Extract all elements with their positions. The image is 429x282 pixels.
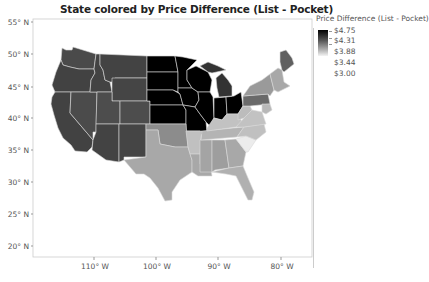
state-az[interactable] [92, 124, 119, 162]
y-tick-label: 30° N [8, 178, 29, 187]
state-ks[interactable] [150, 105, 186, 124]
legend-separator [313, 28, 314, 268]
state-fl[interactable] [212, 166, 254, 200]
y-tick-label: 55° N [8, 18, 29, 27]
x-tick-label: 90° W [207, 262, 231, 271]
legend-title: Price Difference (List - Pocket) [316, 14, 429, 23]
y-tick-label: 40° N [8, 114, 29, 123]
state-ne[interactable] [147, 90, 183, 105]
y-tick-label: 20° N [8, 242, 29, 251]
y-tick-label: 45° N [8, 83, 29, 92]
state-nm[interactable] [119, 124, 146, 162]
legend-label: $4.75 [334, 26, 355, 35]
x-axis: 110° W 100° W 90° W 80° W [81, 257, 294, 271]
x-tick-label: 100° W [143, 262, 171, 271]
legend-label: $3.88 [334, 47, 355, 56]
legend-label: $3.00 [334, 69, 355, 78]
state-md-de-nj[interactable] [262, 104, 272, 114]
state-co[interactable] [120, 101, 150, 124]
state-wy[interactable] [112, 78, 147, 101]
legend-tick [329, 44, 332, 45]
legend-label: $4.31 [334, 36, 355, 45]
state-ms[interactable] [200, 140, 212, 172]
legend-color-bar [318, 30, 328, 56]
x-tick-label: 110° W [81, 262, 109, 271]
state-sd[interactable] [147, 72, 178, 92]
state-nd[interactable] [147, 56, 178, 72]
state-mi[interactable] [216, 73, 232, 97]
y-tick-label: 25° N [8, 210, 29, 219]
y-tick-label: 35° N [8, 146, 29, 155]
state-ny[interactable] [243, 74, 274, 96]
state-me[interactable] [280, 50, 294, 72]
legend-tick [329, 31, 332, 32]
y-axis: 55° N 50° N 45° N 40° N 35° N 30° N 25° … [8, 18, 33, 251]
x-tick-label: 80° W [270, 262, 294, 271]
legend-label: $3.44 [334, 58, 355, 67]
y-tick-label: 50° N [8, 50, 29, 59]
legend-tick [329, 38, 332, 39]
states [51, 47, 294, 201]
